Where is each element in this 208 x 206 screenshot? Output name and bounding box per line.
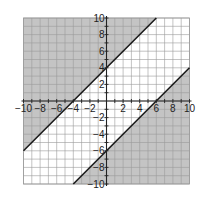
y-tick-label: 8 — [99, 29, 105, 40]
x-tick-label: 10 — [184, 103, 196, 114]
x-tick-label: 8 — [170, 103, 176, 114]
y-tick-label: 4 — [99, 62, 105, 73]
y-tick-label: 2 — [99, 79, 105, 90]
y-tick-label: −8 — [93, 162, 105, 173]
y-tick-label: −6 — [93, 145, 105, 156]
x-tick-label: −8 — [34, 103, 46, 114]
y-tick-label: −4 — [93, 129, 105, 140]
y-tick-label: 6 — [99, 46, 105, 57]
inequality-graph: −10−8−6−4−2246810108642−2−4−6−8−10 — [0, 0, 208, 206]
x-tick-label: −4 — [68, 103, 80, 114]
x-tick-label: 2 — [120, 103, 126, 114]
x-tick-label: 4 — [137, 103, 143, 114]
y-tick-label: −10 — [88, 179, 105, 190]
y-tick-label: −2 — [93, 112, 105, 123]
x-tick-label: 6 — [154, 103, 160, 114]
y-tick-label: 10 — [93, 13, 105, 24]
x-tick-label: −10 — [15, 103, 32, 114]
x-tick-label: −6 — [51, 103, 63, 114]
